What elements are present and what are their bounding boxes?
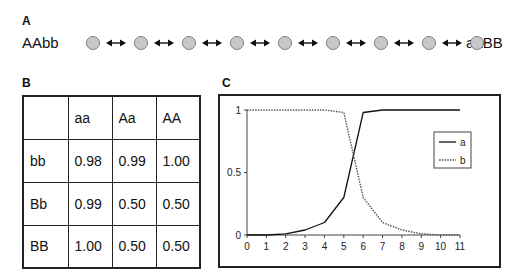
- column-header: Aa: [112, 96, 156, 139]
- row-header: Bb: [23, 182, 68, 225]
- panel-c-label: C: [222, 76, 231, 90]
- table-cell: 0.99: [68, 182, 112, 225]
- x-tick-label: 7: [380, 241, 386, 252]
- double-arrow-icon: [298, 38, 318, 48]
- table-cell: 1.00: [156, 139, 200, 182]
- double-arrow-icon: [202, 38, 222, 48]
- genotype-node: [134, 36, 148, 50]
- x-tick-label: 11: [455, 241, 466, 252]
- table-row: Bb 0.99 0.50 0.50: [23, 182, 200, 225]
- x-tick-label: 9: [418, 241, 424, 252]
- series-line-b: [247, 110, 460, 235]
- y-tick-label: 1: [235, 105, 241, 116]
- x-tick-label: 8: [399, 241, 405, 252]
- genotype-node: [182, 36, 196, 50]
- table-cell: 0.50: [156, 182, 200, 225]
- fitness-table: aa Aa AA bb 0.98 0.99 1.00 Bb 0.99 0.50 …: [22, 95, 201, 269]
- table-cell: 0.50: [156, 225, 200, 268]
- legend-label-a: a: [460, 137, 466, 148]
- x-tick-label: 1: [264, 241, 270, 252]
- genotype-chain: [84, 35, 444, 53]
- x-tick-label: 0: [244, 241, 250, 252]
- x-tick-label: 2: [283, 241, 289, 252]
- genotype-node: [422, 36, 436, 50]
- column-header: aa: [68, 96, 112, 139]
- panel-b-label: B: [22, 76, 31, 90]
- x-tick-label: 6: [360, 241, 366, 252]
- series-line-a: [247, 110, 460, 235]
- row-header: BB: [23, 225, 68, 268]
- left-genotype-label: AAbb: [22, 34, 59, 51]
- genotype-node: [86, 36, 100, 50]
- double-arrow-icon: [346, 38, 366, 48]
- double-arrow-icon: [394, 38, 414, 48]
- table-cell: 1.00: [68, 225, 112, 268]
- row-header: bb: [23, 139, 68, 182]
- line-chart: 00.5101234567891011ab: [220, 96, 499, 266]
- table-cell: 0.98: [68, 139, 112, 182]
- y-tick-label: 0: [235, 230, 241, 241]
- genotype-node: [374, 36, 388, 50]
- legend-label-b: b: [460, 155, 466, 166]
- table-cell: 0.99: [112, 139, 156, 182]
- table-cell: 0.50: [112, 182, 156, 225]
- chart-frame: 00.5101234567891011ab: [218, 94, 501, 268]
- table-row: bb 0.98 0.99 1.00: [23, 139, 200, 182]
- double-arrow-icon: [106, 38, 126, 48]
- x-tick-label: 3: [302, 241, 308, 252]
- table-row: BB 1.00 0.50 0.50: [23, 225, 200, 268]
- table-header-row: aa Aa AA: [23, 96, 200, 139]
- panel-a-label: A: [22, 14, 31, 28]
- table-cell: 0.50: [112, 225, 156, 268]
- genotype-node: [326, 36, 340, 50]
- genotype-node: [278, 36, 292, 50]
- genotype-node: [470, 36, 484, 50]
- table-corner-cell: [23, 96, 68, 139]
- column-header: AA: [156, 96, 200, 139]
- y-tick-label: 0.5: [227, 167, 241, 178]
- x-tick-label: 10: [435, 241, 447, 252]
- x-tick-label: 5: [341, 241, 347, 252]
- genotype-node: [230, 36, 244, 50]
- double-arrow-icon: [250, 38, 270, 48]
- double-arrow-icon: [442, 38, 462, 48]
- x-tick-label: 4: [322, 241, 328, 252]
- double-arrow-icon: [154, 38, 174, 48]
